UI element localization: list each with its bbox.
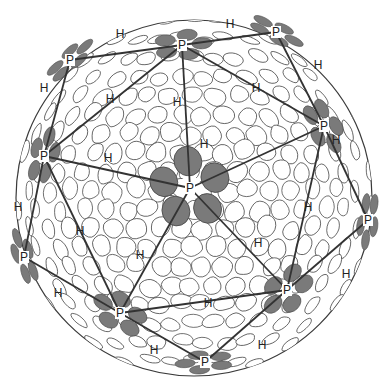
hexamer-label: H xyxy=(104,152,113,164)
hexamer-label: H xyxy=(106,93,115,105)
hexamer-label: H xyxy=(258,339,267,351)
hexamer-label: H xyxy=(173,96,182,108)
hexamer-label: H xyxy=(54,287,63,299)
hexamer-label: H xyxy=(14,201,23,213)
pentamer-label: P xyxy=(115,307,125,319)
pentamer-label: P xyxy=(39,150,49,162)
pentamer-label: P xyxy=(65,54,75,66)
hexamer-label: H xyxy=(254,237,263,249)
hexamer-label: H xyxy=(304,201,313,213)
hexamer-label: H xyxy=(76,225,85,237)
hexamer-label: H xyxy=(252,82,261,94)
hexamer-label: H xyxy=(204,297,213,309)
pentamer-label: P xyxy=(185,182,195,194)
capsid-diagram: PPPPPPPPPPPHHHHHHHHHHHHHHHHHHHH xyxy=(0,0,388,387)
pentamer-label: P xyxy=(177,39,187,51)
hexamer-label: H xyxy=(40,82,49,94)
pentamer-label: P xyxy=(282,284,292,296)
hexamer-label: H xyxy=(314,59,323,71)
hexamer-label: H xyxy=(226,18,235,30)
hexamer-label: H xyxy=(150,344,159,356)
hexamer-label: H xyxy=(342,268,351,280)
pentamer-label: P xyxy=(271,26,281,38)
hexamer-label: H xyxy=(332,134,341,146)
hexamer-label: H xyxy=(200,138,209,150)
pentamer-label: P xyxy=(363,214,373,226)
pentamer-label: P xyxy=(200,356,210,368)
pentamer-label: P xyxy=(319,120,329,132)
hexamer-label: H xyxy=(136,249,145,261)
pentamer-label: P xyxy=(19,251,29,263)
hexamer-label: H xyxy=(116,28,125,40)
